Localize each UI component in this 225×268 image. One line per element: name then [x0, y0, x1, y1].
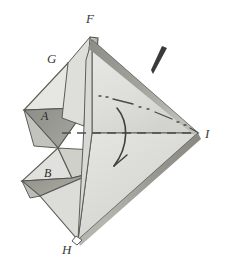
figure-drawing [0, 0, 225, 268]
main-solid [78, 40, 201, 246]
vertex-label-G: G [47, 52, 56, 65]
vertex-label-F: F [86, 12, 94, 25]
tapered-stroke-mark-icon [151, 46, 167, 74]
vertex-label-I: I [205, 127, 209, 140]
face-label-A: A [41, 110, 48, 122]
face-label-B: B [44, 167, 51, 179]
vertex-label-H: H [62, 243, 71, 256]
geometric-figure: F G I H A B [0, 0, 225, 268]
